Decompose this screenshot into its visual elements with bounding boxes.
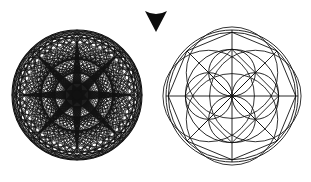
mandala-diagram-svg: [0, 0, 311, 182]
diagram-canvas: [0, 0, 311, 182]
rosette-core: [72, 90, 81, 99]
